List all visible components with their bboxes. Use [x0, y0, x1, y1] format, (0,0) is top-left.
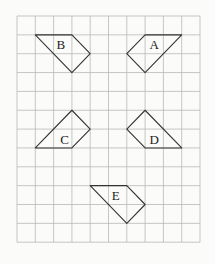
shape-label-b: B: [57, 38, 66, 51]
shape-label-e: E: [112, 189, 120, 202]
shape-label-c: C: [60, 132, 69, 145]
shape-label-a: A: [150, 38, 159, 51]
shape-label-d: D: [150, 132, 159, 145]
grid-lines: [17, 16, 200, 242]
grid-diagram: [0, 0, 215, 264]
